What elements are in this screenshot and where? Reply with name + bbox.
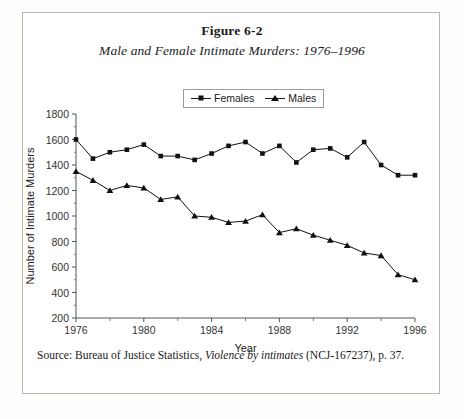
triangle-marker-icon bbox=[271, 95, 279, 101]
legend-line-females bbox=[191, 98, 211, 99]
legend-label-females: Females bbox=[214, 92, 254, 104]
figure-frame: Figure 6-2 Male and Female Intimate Murd… bbox=[22, 12, 440, 394]
chart-legend: Females Males bbox=[183, 89, 324, 108]
source-suffix: (NCJ-167237), p. 37. bbox=[303, 349, 404, 361]
legend-label-males: Males bbox=[288, 92, 316, 104]
source-prefix: Source: Bureau of Justice Statistics, bbox=[37, 349, 205, 361]
square-marker-icon bbox=[199, 96, 204, 101]
legend-item-females: Females bbox=[191, 92, 254, 104]
source-title: Violence by intimates bbox=[205, 349, 303, 361]
legend-item-males: Males bbox=[265, 92, 316, 104]
figure-title: Male and Female Intimate Murders: 1976–1… bbox=[23, 43, 441, 59]
figure-number: Figure 6-2 bbox=[23, 23, 441, 39]
legend-line-males bbox=[265, 98, 285, 99]
title-block: Figure 6-2 Male and Female Intimate Murd… bbox=[23, 23, 441, 59]
source-note: Source: Bureau of Justice Statistics, Vi… bbox=[37, 349, 429, 361]
